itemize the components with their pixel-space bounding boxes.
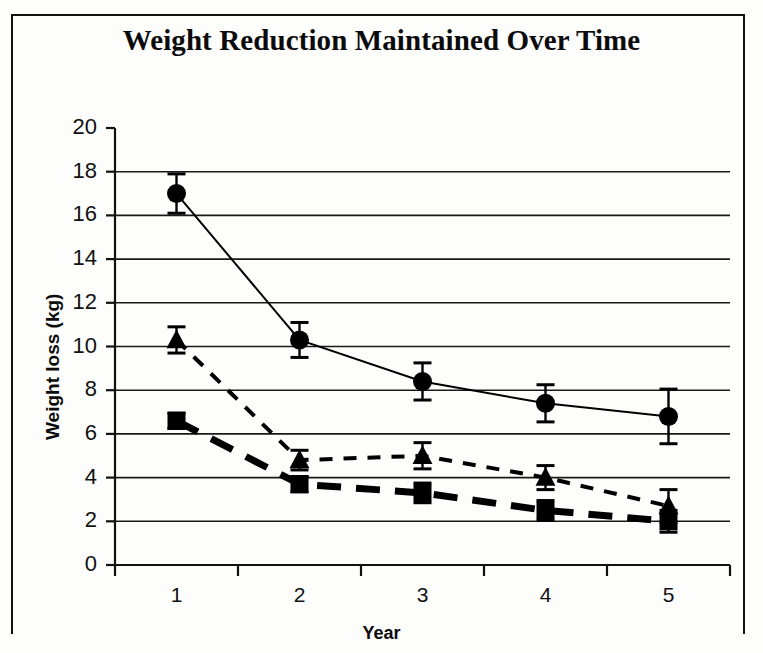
x-tick-label: 4	[526, 583, 566, 607]
y-tick-label: 10	[57, 333, 97, 359]
marker-circle	[413, 372, 432, 391]
chart-plot-area	[0, 0, 763, 653]
y-tick-label: 20	[57, 114, 97, 140]
y-tick-label: 6	[57, 420, 97, 446]
x-tick-label: 1	[157, 583, 197, 607]
y-tick-label: 2	[57, 507, 97, 533]
marker-square	[168, 412, 186, 430]
square-series-line	[177, 421, 669, 522]
error-bars-group	[168, 174, 678, 532]
axes-group	[106, 128, 730, 576]
y-tick-label: 0	[57, 551, 97, 577]
marker-circle	[167, 184, 186, 203]
y-tick-label: 4	[57, 464, 97, 490]
y-tick-label: 18	[57, 158, 97, 184]
x-tick-label: 2	[280, 583, 320, 607]
y-tick-label: 8	[57, 376, 97, 402]
y-tick-label: 16	[57, 201, 97, 227]
chart-figure: Weight Reduction Maintained Over Time We…	[0, 0, 763, 653]
marker-triangle	[167, 329, 187, 348]
marker-circle	[536, 394, 555, 413]
x-tick-label: 3	[403, 583, 443, 607]
marker-circle	[290, 330, 309, 349]
marker-circle	[659, 407, 678, 426]
x-tick-label: 5	[649, 583, 689, 607]
marker-square	[660, 512, 678, 530]
y-tick-label: 12	[57, 289, 97, 315]
series-lines-group	[177, 194, 669, 522]
marker-square	[414, 484, 432, 502]
y-tick-label: 14	[57, 245, 97, 271]
marker-square	[537, 501, 555, 519]
marker-square	[291, 475, 309, 493]
